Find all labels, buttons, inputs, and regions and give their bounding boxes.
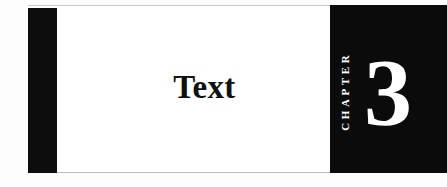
chapter-title: Text [173,71,235,104]
chapter-label: CHAPTER [339,52,351,135]
chapter-number: 3 [358,56,418,131]
chapter-opening-page: Text CHAPTER 3 [0,0,447,187]
left-black-rule [28,8,57,173]
chapter-title-area: Text [57,5,330,173]
chapter-banner: Text CHAPTER 3 [0,5,447,173]
